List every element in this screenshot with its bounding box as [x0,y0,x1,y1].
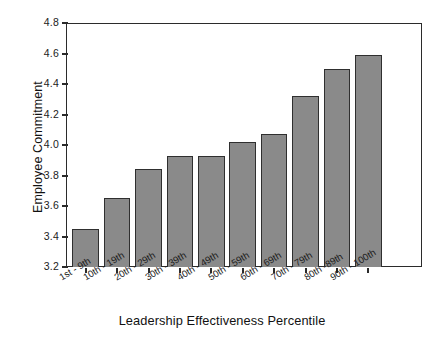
y-axis-tick [62,22,68,24]
bar-slot [227,23,258,267]
y-axis-tick [62,114,68,116]
bar-slot [353,23,384,267]
bar-slot [321,23,352,267]
y-axis-tick [62,53,68,55]
y-axis-tick-label: 4.8 [31,16,59,28]
y-axis-tick [62,144,68,146]
bar[interactable] [261,134,288,267]
bar-slot [133,23,164,267]
y-axis-tick [62,236,68,238]
y-axis-tick-label: 3.2 [31,260,59,272]
bar-slot [196,23,227,267]
bar-series [66,23,422,267]
bar[interactable] [292,96,319,267]
y-axis-tick [62,175,68,177]
y-axis-title: Employee Commitment [31,47,45,247]
bar[interactable] [229,142,256,267]
x-axis-tick-labels: 1st - 9th10th - 19th20th - 29th30th - 39… [66,269,422,317]
bar-slot [164,23,195,267]
bar-slot [101,23,132,267]
bar[interactable] [324,69,351,267]
y-axis-tick [62,83,68,85]
bar-slot [290,23,321,267]
chart-figure: 4.84.64.44.24.03.83.63.43.2 1st - 9th10t… [0,0,444,337]
bar[interactable] [355,55,382,267]
y-axis-tick [62,205,68,207]
bar-slot [70,23,101,267]
bar-slot [258,23,289,267]
x-axis-title: Leadership Effectiveness Percentile [0,313,444,328]
